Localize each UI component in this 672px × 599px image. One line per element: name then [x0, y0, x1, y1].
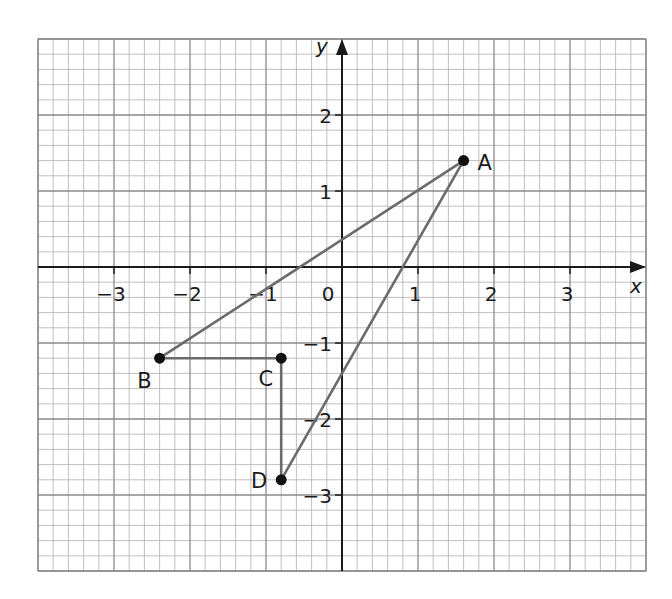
x-axis-arrow-icon [630, 261, 646, 273]
point-label-c: C [259, 367, 274, 391]
coordinate-plane: −3−2−10123−3−2−112 ABCD x y [0, 0, 672, 599]
point-c [276, 353, 287, 364]
y-tick-label: −3 [303, 484, 332, 508]
point-b [154, 353, 165, 364]
point-label-d: D [251, 469, 267, 493]
x-tick-label: 3 [561, 282, 574, 306]
x-tick-label: 2 [485, 282, 498, 306]
y-tick-label: 1 [319, 180, 332, 204]
point-label-a: A [478, 151, 493, 175]
x-tick-label: 1 [409, 282, 422, 306]
origin-label: 0 [322, 282, 335, 306]
point-d [276, 474, 287, 485]
y-tick-label: 2 [319, 104, 332, 128]
y-tick-label: −2 [303, 408, 332, 432]
y-axis-arrow-icon [336, 39, 348, 55]
point-a [458, 155, 469, 166]
y-axis-label: y [315, 34, 329, 58]
x-axis-label: x [629, 274, 642, 298]
x-tick-label: −3 [96, 282, 125, 306]
point-label-b: B [137, 369, 151, 393]
x-tick-label: −2 [172, 282, 201, 306]
tick-labels: −3−2−10123−3−2−112 [96, 104, 573, 508]
y-tick-label: −1 [303, 332, 332, 356]
